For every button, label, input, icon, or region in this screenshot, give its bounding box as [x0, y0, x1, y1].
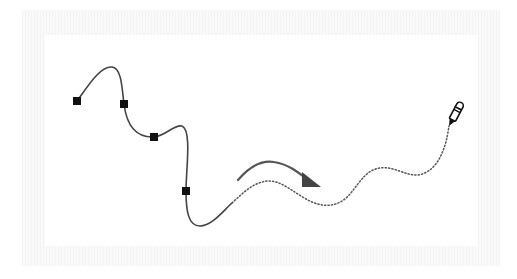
dotted-path [232, 126, 449, 205]
anchor-point-4[interactable] [182, 187, 190, 195]
pen-icon [446, 101, 465, 128]
solid-path [77, 67, 232, 226]
anchor-point-2[interactable] [120, 100, 128, 108]
anchor-point-1[interactable] [73, 97, 81, 105]
anchor-point-3[interactable] [150, 133, 158, 141]
pen-path-diagram [0, 0, 517, 279]
